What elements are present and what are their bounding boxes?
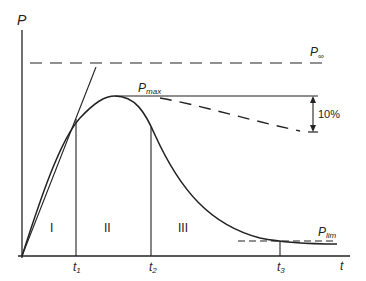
drop-percent-label: 10%: [318, 108, 340, 120]
arrow-head-down-icon: [310, 125, 316, 132]
t1-label: t1: [73, 260, 81, 275]
p-max-label: Pmax: [138, 81, 162, 96]
region-3-label: III: [178, 221, 188, 235]
region-2-label: II: [104, 221, 111, 235]
region-1-label: I: [50, 221, 53, 235]
power-time-diagram: P t P∞ Pmax 10% Plim I II III t1 t2 t3: [0, 0, 366, 281]
t3-label: t3: [277, 260, 285, 275]
p-lim-label: Plim: [318, 225, 337, 240]
y-axis-label: P: [17, 12, 27, 28]
declining-dashed-curve: [160, 98, 300, 131]
p-inf-label: P∞: [310, 45, 324, 61]
x-axis-label: t: [340, 259, 344, 273]
t2-label: t2: [149, 260, 157, 275]
arrow-head-up-icon: [310, 96, 316, 103]
initial-tangent-line: [22, 67, 96, 256]
